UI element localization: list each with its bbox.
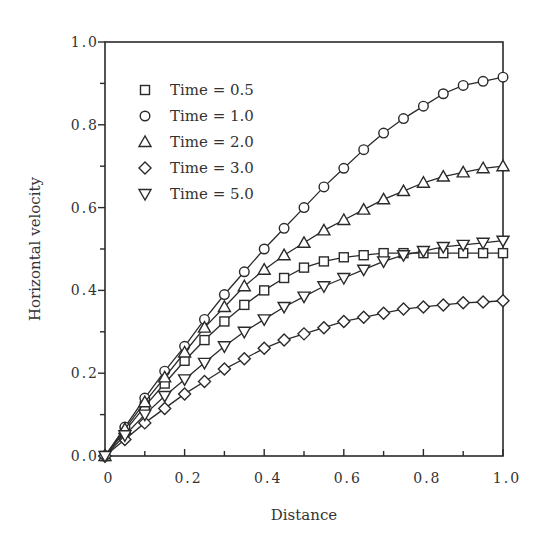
square-marker-icon bbox=[220, 317, 229, 326]
diamond-marker-icon bbox=[298, 328, 310, 340]
x-tick-label: 0.4 bbox=[254, 470, 282, 486]
circle-marker-icon bbox=[220, 290, 230, 300]
line-chart: 00.20.40.60.81.00.00.20.40.60.81.0 Time … bbox=[0, 0, 538, 543]
circle-marker-icon bbox=[439, 89, 449, 99]
diamond-marker-icon bbox=[278, 334, 290, 346]
y-tick-label: 1.0 bbox=[71, 34, 99, 50]
square-marker-icon bbox=[200, 336, 209, 345]
triangle-up-marker-icon bbox=[258, 264, 270, 275]
triangle-down-marker-icon bbox=[278, 302, 290, 313]
triangle-down-marker-icon bbox=[378, 257, 390, 268]
y-tick-label: 0.4 bbox=[71, 282, 99, 298]
diamond-marker-icon bbox=[398, 303, 410, 315]
y-tick-label: 0.2 bbox=[71, 365, 99, 381]
triangle-down-marker-icon bbox=[318, 282, 330, 293]
triangle-up-marker-icon bbox=[497, 160, 509, 171]
x-tick-label: 0.8 bbox=[413, 470, 441, 486]
diamond-marker-icon bbox=[139, 162, 151, 174]
square-marker-icon bbox=[280, 273, 289, 282]
circle-marker-icon bbox=[279, 224, 289, 234]
circle-marker-icon bbox=[379, 128, 389, 138]
diamond-marker-icon bbox=[358, 311, 370, 323]
diamond-marker-icon bbox=[497, 295, 509, 307]
circle-marker-icon bbox=[399, 114, 409, 124]
legend-item: Time = 2.0 bbox=[139, 133, 254, 151]
triangle-down-marker-icon bbox=[139, 190, 151, 201]
x-tick-label: 1.0 bbox=[493, 470, 521, 486]
circle-marker-icon bbox=[240, 267, 250, 277]
diamond-marker-icon bbox=[417, 301, 429, 313]
triangle-up-marker-icon bbox=[278, 249, 290, 259]
legend-item: Time = 1.0 bbox=[140, 107, 254, 125]
square-marker-icon bbox=[300, 263, 309, 272]
diamond-marker-icon bbox=[318, 322, 330, 334]
legend-item: Time = 0.5 bbox=[141, 81, 254, 99]
square-marker-icon bbox=[359, 251, 368, 260]
legend-label: Time = 3.0 bbox=[170, 159, 254, 177]
axis-ticks: 00.20.40.60.81.00.00.20.40.60.81.0 bbox=[71, 34, 521, 486]
y-tick-label: 0.8 bbox=[71, 117, 99, 133]
circle-marker-icon bbox=[140, 111, 150, 121]
triangle-up-marker-icon bbox=[358, 204, 370, 215]
diamond-marker-icon bbox=[477, 296, 489, 308]
circle-marker-icon bbox=[339, 163, 349, 173]
triangle-up-marker-icon bbox=[318, 224, 330, 235]
circle-marker-icon bbox=[458, 81, 468, 91]
diamond-marker-icon bbox=[457, 297, 469, 309]
diamond-marker-icon bbox=[338, 315, 350, 327]
triangle-up-marker-icon bbox=[139, 136, 151, 147]
square-marker-icon bbox=[260, 286, 269, 295]
circle-marker-icon bbox=[419, 101, 429, 111]
circle-marker-icon bbox=[299, 203, 309, 213]
series-layer bbox=[99, 72, 509, 462]
square-marker-icon bbox=[319, 257, 328, 266]
diamond-marker-icon bbox=[378, 307, 390, 319]
triangle-up-marker-icon bbox=[338, 214, 350, 225]
triangle-down-marker-icon bbox=[358, 265, 370, 276]
legend-item: Time = 3.0 bbox=[139, 159, 254, 177]
x-tick-label: 0.6 bbox=[334, 470, 362, 486]
triangle-down-marker-icon bbox=[238, 327, 250, 338]
triangle-up-marker-icon bbox=[398, 185, 410, 196]
triangle-up-marker-icon bbox=[238, 280, 250, 291]
legend-label: Time = 1.0 bbox=[170, 107, 254, 125]
series-line bbox=[105, 241, 503, 456]
legend-label: Time = 5.0 bbox=[170, 185, 254, 203]
square-marker-icon bbox=[339, 253, 348, 262]
triangle-down-marker-icon bbox=[179, 375, 191, 386]
triangle-down-marker-icon bbox=[258, 315, 270, 326]
triangle-up-marker-icon bbox=[378, 193, 390, 204]
x-tick-label: 0.2 bbox=[174, 470, 202, 486]
diamond-marker-icon bbox=[238, 353, 250, 365]
triangle-down-marker-icon bbox=[199, 358, 211, 369]
square-marker-icon bbox=[240, 300, 249, 309]
series-line bbox=[105, 253, 503, 456]
circle-marker-icon bbox=[319, 182, 329, 192]
square-marker-icon bbox=[141, 86, 150, 95]
diamond-marker-icon bbox=[437, 299, 449, 311]
triangle-down-marker-icon bbox=[218, 342, 230, 353]
x-tick-label: 0 bbox=[104, 470, 115, 486]
legend-label: Time = 0.5 bbox=[170, 81, 254, 99]
series-time-0-5 bbox=[101, 249, 508, 461]
legend-item: Time = 5.0 bbox=[139, 185, 254, 203]
diamond-marker-icon bbox=[179, 388, 191, 400]
circle-marker-icon bbox=[359, 145, 369, 155]
triangle-down-marker-icon bbox=[298, 292, 310, 303]
circle-marker-icon bbox=[478, 77, 488, 87]
diamond-marker-icon bbox=[218, 363, 230, 375]
circle-marker-icon bbox=[259, 244, 269, 254]
triangle-up-marker-icon bbox=[298, 237, 310, 248]
legend: Time = 0.5Time = 1.0Time = 2.0Time = 3.0… bbox=[139, 81, 254, 203]
x-axis-title: Distance bbox=[271, 506, 338, 524]
legend-label: Time = 2.0 bbox=[170, 133, 254, 151]
square-marker-icon bbox=[499, 249, 508, 258]
y-axis-title: Horizontal velocity bbox=[26, 176, 44, 321]
circle-marker-icon bbox=[498, 72, 508, 82]
diamond-marker-icon bbox=[258, 342, 270, 354]
diamond-marker-icon bbox=[159, 402, 171, 414]
y-tick-label: 0.6 bbox=[71, 200, 99, 216]
triangle-down-marker-icon bbox=[338, 273, 350, 284]
diamond-marker-icon bbox=[199, 375, 211, 387]
y-tick-label: 0.0 bbox=[71, 448, 99, 464]
